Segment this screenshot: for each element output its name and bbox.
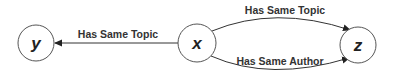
node-label-z: z bbox=[353, 36, 363, 55]
node-y: y bbox=[18, 25, 54, 61]
node-x: x bbox=[178, 24, 216, 62]
edge-label-x-z-topic: Has Same Topic bbox=[245, 4, 325, 16]
edge-x-to-y: Has Same Topic bbox=[55, 28, 178, 43]
edge-label-x-y: Has Same Topic bbox=[78, 28, 158, 40]
node-z: z bbox=[340, 27, 376, 63]
edge-x-to-z-author: Has Same Author bbox=[211, 55, 349, 70]
graph-diagram: Has Same Topic Has Same Topic Has Same A… bbox=[0, 0, 395, 78]
edge-x-to-z-topic: Has Same Topic bbox=[212, 4, 350, 31]
node-label-y: y bbox=[30, 34, 42, 53]
edge-label-x-z-author: Has Same Author bbox=[236, 55, 323, 67]
node-label-x: x bbox=[191, 34, 203, 53]
